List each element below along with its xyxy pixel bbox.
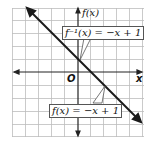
inverse-function-callout: f⁻¹(x) = −x + 1	[62, 26, 144, 40]
function-callout: f(x) = −x + 1	[49, 104, 122, 118]
origin-label: O	[67, 73, 76, 84]
y-axis-label: f(x)	[82, 7, 99, 18]
callout-pointers	[80, 38, 105, 103]
x-axis-label: x	[136, 73, 142, 84]
